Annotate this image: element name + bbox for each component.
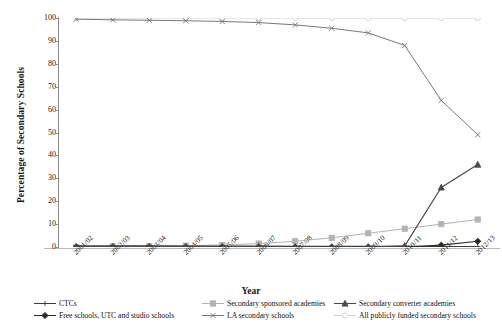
legend-label: All publicly funded secondary schools (359, 311, 476, 320)
y-tick-label: 0 (30, 243, 56, 251)
legend-label: LA secondary schools (227, 311, 294, 320)
x-tick-mark (149, 248, 150, 251)
x-tick-mark (259, 248, 260, 251)
y-tick-label: 60 (30, 106, 56, 114)
y-tick-label: 90 (30, 37, 56, 45)
series-secondary-converter-academies (73, 161, 481, 247)
x-tick-mark (368, 248, 369, 251)
legend-swatch-triangle-icon (334, 299, 356, 308)
x-tick-mark (113, 248, 114, 251)
y-axis-title: Percentage of Secondary Schools (16, 40, 26, 230)
x-tick-mark (405, 248, 406, 251)
legend-item: Secondary sponsored academies (202, 299, 334, 308)
x-tick-mark (222, 248, 223, 251)
legend-label: Secondary sponsored academies (227, 299, 325, 308)
x-tick-mark (76, 248, 77, 251)
legend-swatch-cross-icon (202, 311, 224, 320)
legend-swatch-square-icon (202, 299, 224, 308)
series-la-secondary-schools (74, 18, 481, 137)
legend-swatch-diamond-icon (34, 311, 56, 320)
x-tick-mark (332, 248, 333, 251)
x-tick-mark (295, 248, 296, 251)
y-tick-label: 10 (30, 220, 56, 228)
legend-item: CTCs (34, 299, 202, 308)
y-tick-label: 100 (30, 14, 56, 22)
legend-item: Free schools, UTC and studio schools (34, 311, 202, 320)
y-tick-label: 30 (30, 174, 56, 182)
y-tick-label: 40 (30, 151, 56, 159)
x-tick-mark (186, 248, 187, 251)
x-tick-mark (441, 248, 442, 251)
legend-label: Free schools, UTC and studio schools (59, 311, 174, 320)
series-canvas (58, 18, 496, 247)
legend-swatch-circle-icon (334, 311, 356, 320)
x-axis-title: Year (0, 286, 502, 296)
legend-item: Secondary converter academies (334, 299, 484, 308)
y-tick-label: 50 (30, 129, 56, 137)
chart-figure: Percentage of Secondary Schools 01020304… (0, 0, 502, 334)
chart-legend: CTCsSecondary sponsored academiesSeconda… (34, 297, 484, 321)
legend-swatch-plus-icon (34, 299, 56, 308)
y-tick-label: 20 (30, 197, 56, 205)
y-tick-label: 70 (30, 83, 56, 91)
y-tick-mark (55, 247, 58, 248)
legend-item: All publicly funded secondary schools (334, 311, 484, 320)
y-tick-label: 80 (30, 60, 56, 68)
legend-item: LA secondary schools (202, 311, 334, 320)
x-tick-mark (478, 248, 479, 251)
legend-label: CTCs (59, 299, 77, 308)
plot-area (58, 18, 496, 247)
legend-label: Secondary converter academies (359, 299, 455, 308)
